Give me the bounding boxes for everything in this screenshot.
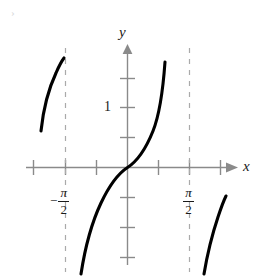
x-tick-label-negative-half-pi: − π 2 bbox=[50, 186, 69, 217]
fraction-stack: π 2 bbox=[58, 186, 69, 217]
minus-sign: − bbox=[50, 193, 58, 210]
tangent-function-graph-figure: › bbox=[0, 0, 259, 277]
fraction-denominator: 2 bbox=[185, 203, 192, 217]
y-axis-label: y bbox=[119, 25, 126, 40]
tangent-curve-right-branch bbox=[204, 196, 226, 274]
fraction-numerator: π bbox=[184, 186, 193, 200]
y-tick-label-one: 1 bbox=[104, 100, 111, 114]
x-axis-label: x bbox=[243, 159, 250, 174]
fraction-denominator: 2 bbox=[61, 203, 68, 217]
x-axis-arrowhead bbox=[226, 163, 238, 173]
plot-canvas bbox=[0, 0, 259, 277]
fraction-numerator: π bbox=[60, 186, 69, 200]
fraction-stack: π 2 bbox=[183, 186, 194, 217]
x-tick-label-half-pi: π 2 bbox=[182, 186, 194, 217]
tangent-curve-left-branch bbox=[41, 58, 64, 131]
y-axis-arrowhead bbox=[123, 44, 133, 54]
